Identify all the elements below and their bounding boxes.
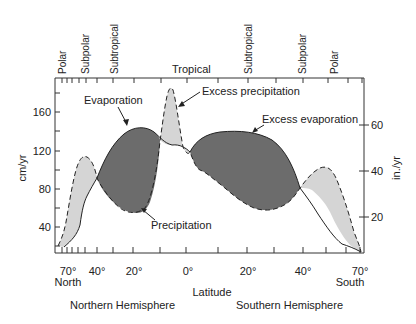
southern-hemisphere-label: Southern Hemisphere xyxy=(236,299,343,311)
arrowhead-icon xyxy=(252,127,258,133)
zone-subpolar-south: Subpolar xyxy=(297,33,308,74)
y-left-tick-80: 80 xyxy=(39,183,51,195)
x-tick-40s: 40° xyxy=(295,265,312,277)
x-axis-title: Latitude xyxy=(192,286,231,298)
top-ticks xyxy=(62,78,362,83)
y-right-tick-20: 20 xyxy=(371,211,383,223)
zone-polar-north: Polar xyxy=(57,50,68,74)
zone-polar-south: Polar xyxy=(329,50,340,74)
annotation-excess-evaporation: Excess evaporation xyxy=(262,113,358,125)
y-left-tick-120: 120 xyxy=(33,145,51,157)
chart: 160 120 80 40 cm/yr 60 40 20 in./yr Pola… xyxy=(0,0,416,324)
y-right-axis-title: in./yr xyxy=(390,156,402,180)
zone-subtropical-south: Subtropical xyxy=(243,24,254,74)
zone-subpolar-north: Subpolar xyxy=(80,33,91,74)
zone-tropical: Tropical xyxy=(172,63,211,75)
annotation-excess-precipitation: Excess precipitation xyxy=(202,85,300,97)
northern-hemisphere-label: Northern Hemisphere xyxy=(70,299,175,311)
annotation-precipitation: Precipitation xyxy=(151,219,212,231)
y-right-tick-40: 40 xyxy=(371,165,383,177)
x-tick-20n: 20° xyxy=(126,265,143,277)
annotation-evaporation: Evaporation xyxy=(84,94,143,106)
arrowhead-icon xyxy=(123,119,129,126)
left-axis-ticks xyxy=(55,93,60,246)
x-tick-south: South xyxy=(336,276,365,288)
y-left-axis-title: cm/yr xyxy=(16,154,28,181)
x-tick-equator: 0° xyxy=(183,265,194,277)
y-left-tick-40: 40 xyxy=(39,221,51,233)
x-tick-north: North xyxy=(55,276,82,288)
bottom-ticks xyxy=(62,247,360,253)
zone-subtropical-north: Subtropical xyxy=(109,24,120,74)
x-tick-40n: 40° xyxy=(89,265,106,277)
y-right-tick-60: 60 xyxy=(371,119,383,131)
y-left-tick-160: 160 xyxy=(33,106,51,118)
x-tick-20s: 20° xyxy=(240,265,257,277)
